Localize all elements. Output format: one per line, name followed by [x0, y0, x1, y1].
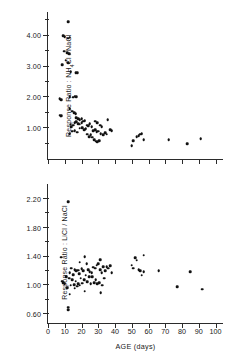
data-point [72, 273, 75, 276]
data-point [75, 95, 78, 98]
data-point [74, 113, 77, 116]
data-point [96, 283, 99, 286]
data-point [67, 309, 70, 312]
x-tick-label: 60 [145, 328, 153, 335]
y-tick-label: 1.00 [27, 125, 41, 132]
data-point [69, 284, 72, 287]
x-tick-label: 90 [195, 328, 203, 335]
data-point [189, 270, 192, 273]
data-point [90, 271, 93, 274]
data-point [85, 263, 88, 266]
x-tick-label: 100 [210, 328, 222, 335]
y-tick-label: 3.00 [27, 63, 41, 70]
x-tick-label: 80 [178, 328, 186, 335]
data-point [63, 36, 66, 39]
data-point [81, 282, 84, 285]
data-point [63, 50, 66, 53]
y-tick-minor [45, 299, 49, 300]
y-tick-minor [45, 50, 49, 51]
y-tick-minor [45, 81, 49, 82]
data-point [79, 277, 82, 280]
y-tick-minor [45, 241, 49, 242]
y-tick-major [43, 96, 49, 97]
data-point [63, 283, 66, 286]
y-tick-major [43, 35, 49, 36]
data-point [105, 133, 108, 136]
data-point [84, 274, 87, 277]
y-tick-major [43, 256, 49, 257]
y-tick-label: 1.80 [27, 224, 41, 231]
data-point [68, 277, 71, 280]
data-point [61, 64, 64, 67]
data-point [76, 71, 79, 74]
data-point [84, 290, 87, 293]
data-point [66, 286, 69, 289]
data-point [68, 132, 71, 135]
y-tick-label: 4.00 [27, 32, 41, 39]
data-point [142, 270, 145, 273]
x-tick [82, 159, 83, 164]
data-point [102, 265, 105, 268]
y-tick-label: 1.00 [27, 282, 41, 289]
x-tick [98, 159, 99, 164]
x-tick-label: 40 [111, 328, 119, 335]
data-point [89, 283, 92, 286]
data-point [167, 139, 170, 142]
data-point [106, 118, 109, 121]
data-point [131, 145, 134, 148]
data-point [107, 267, 110, 270]
data-point [68, 95, 71, 98]
data-point [101, 284, 104, 287]
y-tick-minor [45, 212, 49, 213]
data-point [104, 270, 107, 273]
data-point [98, 139, 101, 142]
data-point [94, 267, 97, 270]
data-point [157, 270, 160, 273]
data-point [176, 286, 179, 289]
y-tick-major [43, 313, 49, 314]
figure-container: Response Ratio : NH4Cl / NaCl 1.002.003.… [0, 0, 231, 360]
data-point [76, 131, 79, 134]
data-point [60, 256, 63, 259]
y-tick-label: 1.40 [27, 253, 41, 260]
data-point [141, 274, 144, 277]
x-tick [115, 159, 116, 164]
x-tick-label: 50 [128, 328, 136, 335]
y-tick-major [43, 284, 49, 285]
data-point [132, 267, 135, 270]
data-point [100, 125, 103, 128]
data-point [142, 254, 145, 257]
plot-area-bottom: Response Ratio : LiCl / NaCl 0.601.001.4… [47, 184, 223, 324]
data-point [141, 132, 144, 135]
data-point [79, 261, 82, 264]
data-point [100, 291, 103, 294]
data-point [60, 115, 63, 118]
x-tick-label: 0 [46, 328, 50, 335]
data-point [86, 281, 89, 284]
plot-area-top: Response Ratio : NH4Cl / NaCl 1.002.003.… [47, 12, 223, 160]
data-point [67, 200, 70, 203]
x-tick [216, 159, 217, 164]
y-tick-major [43, 66, 49, 67]
data-point [78, 273, 81, 276]
data-point [70, 267, 73, 270]
x-tick [149, 159, 150, 164]
data-point [83, 278, 86, 281]
data-point [68, 52, 71, 55]
data-point [84, 255, 87, 258]
chart-panel-bottom: Response Ratio : LiCl / NaCl 0.601.001.4… [0, 178, 231, 360]
x-tick-label: 70 [161, 328, 169, 335]
data-point [68, 36, 71, 39]
x-tick [132, 159, 133, 164]
x-tick-label: 20 [78, 328, 86, 335]
data-point [88, 276, 91, 279]
data-point [82, 270, 85, 273]
data-point [186, 142, 189, 145]
y-tick-major [43, 198, 49, 199]
y-tick-minor [45, 270, 49, 271]
data-point [110, 129, 113, 132]
data-point [68, 271, 71, 274]
data-point [142, 139, 145, 142]
data-point [72, 124, 75, 127]
y-tick-label: 2.00 [27, 94, 41, 101]
